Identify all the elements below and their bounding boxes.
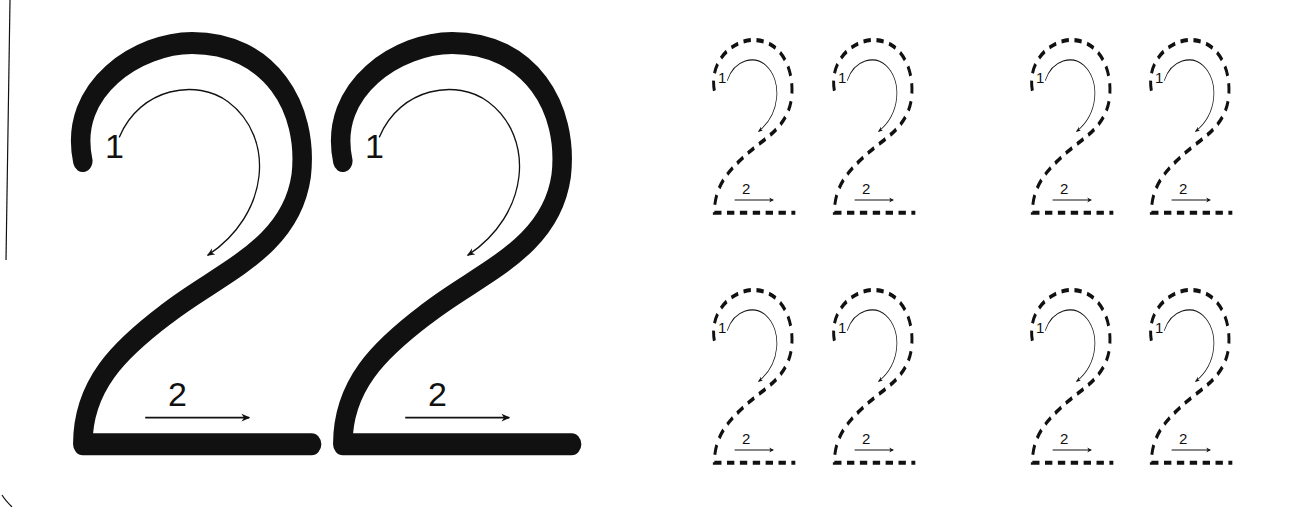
large-digit-1-stroke-2-label: 2: [168, 375, 187, 413]
practice-digit[interactable]: [1032, 40, 1114, 213]
large-digit-1-stroke-1-label: 1: [105, 127, 124, 165]
large-digit-2-stroke-2-label: 2: [428, 375, 447, 413]
stroke-1-label: 1: [718, 69, 726, 86]
practice-group-1: 1 2 1 2: [714, 40, 916, 213]
stroke-2-label: 2: [742, 430, 750, 447]
large-digit-1: [81, 43, 312, 444]
stroke-1-label: 1: [1036, 319, 1044, 336]
practice-group-2: 1 2 1 2: [1032, 40, 1233, 213]
stroke-1-label: 1: [1155, 69, 1163, 86]
page-border-curve: [2, 495, 12, 507]
stroke-2-label: 2: [1179, 180, 1187, 197]
stroke-2-label: 2: [1060, 430, 1068, 447]
stroke-2-label: 2: [1179, 430, 1187, 447]
practice-digit[interactable]: [1032, 290, 1114, 463]
practice-group-4: 1 2 1 2: [1032, 290, 1233, 463]
large-digit-2-stroke-1-label: 1: [365, 127, 384, 165]
stroke-1-label: 1: [838, 69, 846, 86]
stroke-2-label: 2: [862, 430, 870, 447]
stroke-1-label: 1: [1155, 319, 1163, 336]
page-border-line: [6, 0, 10, 260]
stroke-1-label: 1: [838, 319, 846, 336]
practice-digit[interactable]: [1151, 40, 1233, 213]
stroke-2-label: 2: [862, 180, 870, 197]
practice-group-3: 1 2 1 2: [714, 290, 916, 463]
stroke-1-label: 1: [718, 319, 726, 336]
practice-digit[interactable]: [1151, 290, 1233, 463]
practice-digit[interactable]: [714, 40, 796, 213]
stroke-2-label: 2: [1060, 180, 1068, 197]
worksheet-canvas: 1 2 1 2 1 2 1 2 1 2: [0, 0, 1289, 507]
stroke-1-label: 1: [1036, 69, 1044, 86]
practice-digit[interactable]: [834, 290, 916, 463]
stroke-2-label: 2: [742, 180, 750, 197]
large-digit-2: [341, 43, 572, 444]
practice-digit[interactable]: [834, 40, 916, 213]
practice-digit[interactable]: [714, 290, 796, 463]
